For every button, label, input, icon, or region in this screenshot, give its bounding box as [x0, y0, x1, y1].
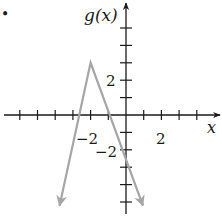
left-arrow-icon	[60, 198, 62, 205]
x-axis-label: x	[207, 118, 216, 137]
y-tick-label-neg2: −2	[95, 143, 117, 161]
x-tick-label-2: 2	[156, 130, 166, 148]
coordinate-graph: • g(x) x −2 2 2 −2	[0, 0, 222, 216]
right-arrow-icon	[140, 198, 143, 205]
bullet-marker: •	[1, 6, 9, 22]
y-axis-label: g(x)	[84, 5, 118, 25]
y-tick-label-2: 2	[106, 72, 116, 90]
